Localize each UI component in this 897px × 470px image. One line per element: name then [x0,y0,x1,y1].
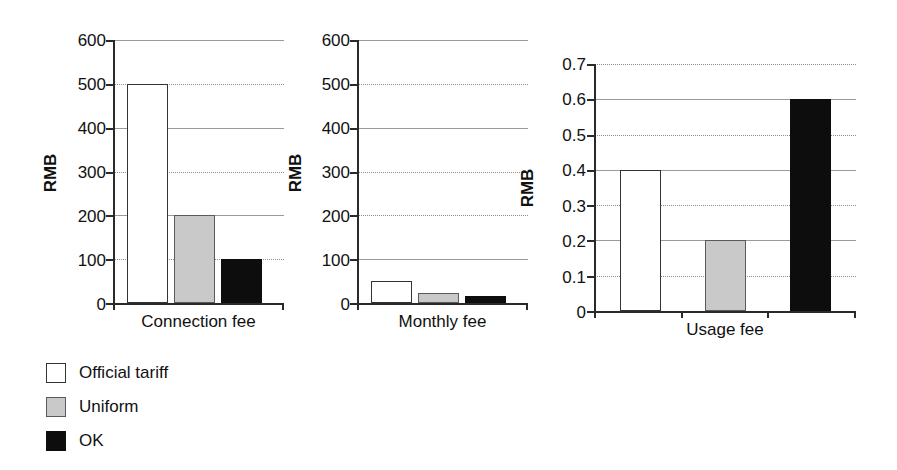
panel-3-tick-0-6 [587,99,594,101]
legend-label-uniform: Uniform [79,397,139,417]
panel-3-x-axis [594,311,856,313]
panel-3-ytick-0-3: 0.3 [534,198,586,215]
legend-swatch-uniform [46,397,66,417]
panel-3-tick-0 [587,311,594,313]
panel-usage-fee: RMB 0.7 0.6 0.5 0.4 0.3 0.2 0.1 0 [0,0,897,350]
panel-3-tick-0-5 [587,135,594,137]
legend-item-ok: OK [46,424,168,458]
panel-3-ytick-0-5: 0.5 [534,127,586,144]
legend-item-official-tariff: Official tariff [46,356,168,390]
panel-3-ytick-0: 0 [534,304,586,321]
bar-chart-figure: RMB 600 500 400 300 200 100 0 [0,0,897,470]
legend-swatch-official-tariff [46,363,66,383]
panel-3-category-label: Usage fee [594,320,856,340]
legend-item-uniform: Uniform [46,390,168,424]
bar-uniform-usage-fee [705,240,746,311]
panel-3-tick-0-1 [587,276,594,278]
panel-3-ytick-0-4: 0.4 [534,162,586,179]
panel-3-xtick-0 [594,311,596,318]
panel-3-tick-0-3 [587,205,594,207]
legend-label-official-tariff: Official tariff [79,363,168,383]
legend-label-ok: OK [79,431,104,451]
bar-ok-usage-fee [790,99,831,311]
panel-3-y-axis [594,64,596,311]
panel-3-ytick-0-7: 0.7 [534,56,586,73]
legend-swatch-ok [46,431,66,451]
panel-3-gridline-0-7 [594,64,856,65]
panel-3-ytick-0-2: 0.2 [534,233,586,250]
panel-3-xtick-1 [681,311,683,318]
panel-3-xtick-2 [767,311,769,318]
panel-3-tick-0-2 [587,240,594,242]
panel-3-plot-area [594,64,856,311]
panel-3-ytick-0-6: 0.6 [534,91,586,108]
panel-3-tick-0-4 [587,170,594,172]
panel-3-tick-0-7 [587,64,594,66]
bar-official-tariff-usage-fee [620,170,661,311]
chart-legend: Official tariff Uniform OK [46,356,168,458]
panel-3-ytick-0-1: 0.1 [534,269,586,286]
panel-3-xtick-3 [854,311,856,318]
